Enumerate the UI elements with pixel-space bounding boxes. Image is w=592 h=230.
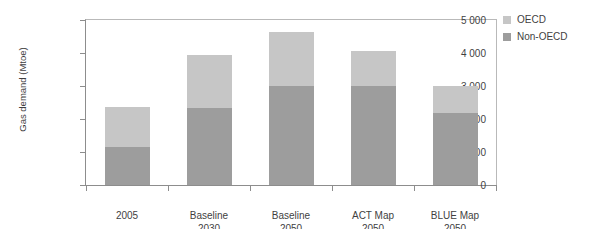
legend-item-oecd[interactable]: OECD	[503, 14, 568, 25]
y-axis-tick	[80, 152, 86, 153]
bar-act-map-2050	[351, 51, 396, 185]
bar-segment-non-oecd	[351, 86, 396, 185]
y-axis-tick-label: 0	[480, 180, 486, 191]
x-axis-tick-end	[86, 185, 87, 191]
y-axis-tick	[80, 53, 86, 54]
chart-legend: OECDNon-OECD	[503, 14, 568, 48]
bar-baseline-2030	[187, 55, 232, 185]
legend-swatch-oecd	[503, 16, 511, 24]
bar-segment-oecd	[269, 32, 314, 86]
plot-area: 01 0002 0003 0004 0005 0002005Baseline20…	[85, 19, 497, 186]
bar-2005	[105, 107, 150, 185]
x-axis-tick	[168, 185, 169, 191]
x-axis-tick-end	[496, 185, 497, 191]
bar-baseline-2050	[269, 32, 314, 185]
legend-item-non-oecd[interactable]: Non-OECD	[503, 31, 568, 42]
bar-segment-oecd	[433, 86, 478, 113]
figure-title-cropped	[0, 0, 592, 3]
bar-segment-non-oecd	[433, 113, 478, 185]
gas-demand-stacked-bar-chart: Gas demand (Mtoe) 01 0002 0003 0004 0005…	[0, 0, 592, 229]
bar-blue-map-2050	[433, 86, 478, 185]
x-axis-tick	[414, 185, 415, 191]
y-axis-title: Gas demand (Mtoe)	[17, 10, 28, 170]
y-axis-tick	[80, 20, 86, 21]
x-axis-tick	[250, 185, 251, 191]
x-axis-label-line: BLUE Map	[407, 210, 503, 223]
y-axis-tick	[80, 86, 86, 87]
bar-segment-oecd	[351, 51, 396, 86]
x-axis-label-blue-map-2050: BLUE Map2050	[407, 210, 503, 229]
y-axis-tick-label: 5 000	[461, 15, 486, 26]
bar-segment-oecd	[187, 55, 232, 109]
bar-segment-non-oecd	[187, 108, 232, 185]
x-axis-label-line: 2050	[407, 223, 503, 230]
y-axis-tick	[80, 119, 86, 120]
legend-item-label: OECD	[517, 14, 546, 25]
legend-item-label: Non-OECD	[517, 31, 568, 42]
legend-swatch-non-oecd	[503, 33, 511, 41]
bar-segment-non-oecd	[105, 147, 150, 185]
bar-segment-oecd	[105, 107, 150, 147]
x-axis-tick	[332, 185, 333, 191]
bar-segment-non-oecd	[269, 86, 314, 185]
y-axis-tick-label: 4 000	[461, 48, 486, 59]
